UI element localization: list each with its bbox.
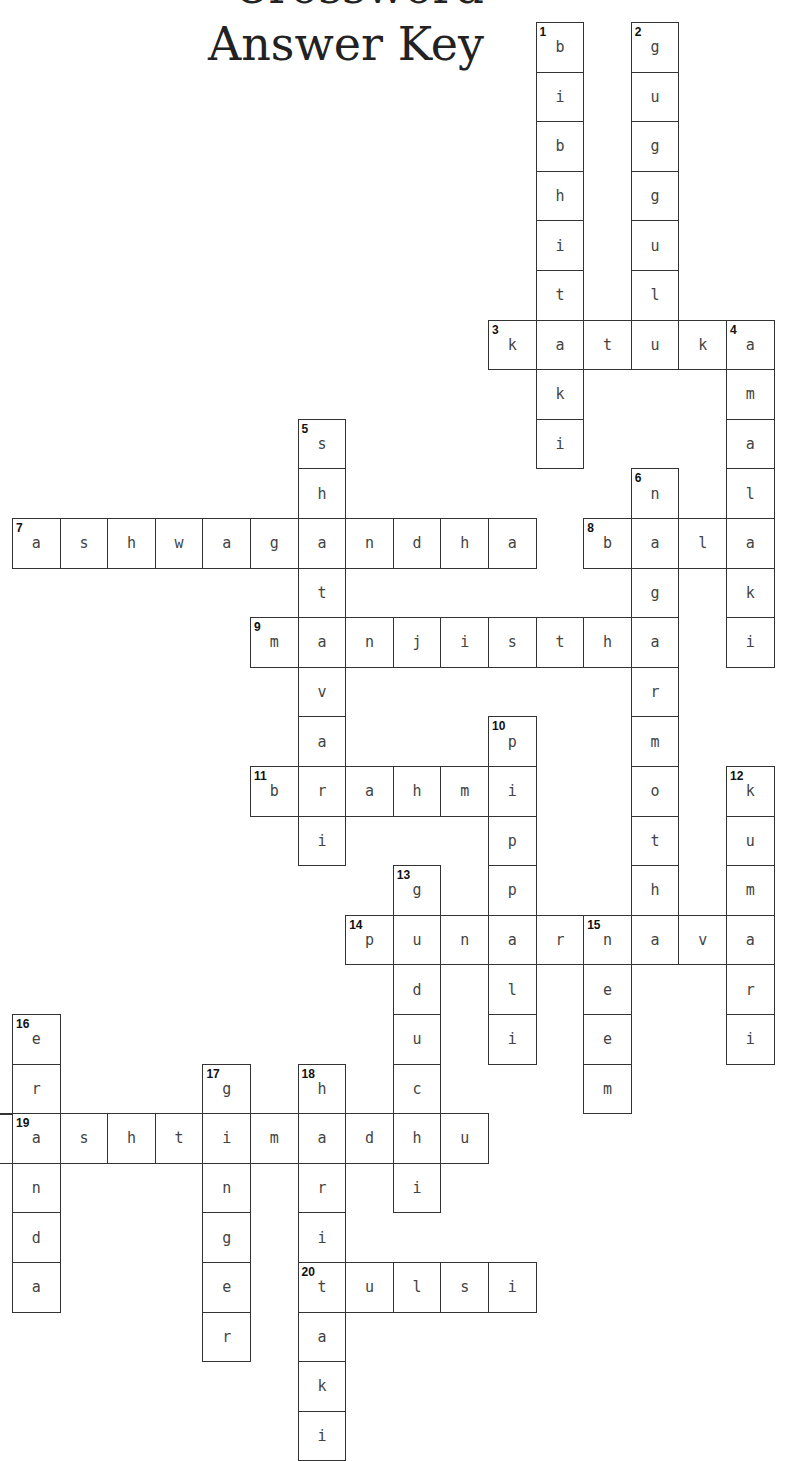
crossword-cell: a <box>631 617 680 668</box>
crossword-cell: n <box>440 915 489 966</box>
clue-number: 16 <box>16 1017 29 1031</box>
crossword-cell: g <box>250 518 299 569</box>
cell-letter: m <box>746 881 755 899</box>
cell-letter: k <box>317 1377 326 1395</box>
cell-letter: g <box>222 1080 231 1098</box>
crossword-cell: g17 <box>202 1064 251 1115</box>
cell-letter: s <box>79 534 88 552</box>
cell-letter: k <box>746 584 755 602</box>
cell-letter: i <box>317 832 326 850</box>
crossword-cell: n <box>12 1163 61 1214</box>
crossword-cell: t20 <box>298 1262 347 1313</box>
crossword-cell: m <box>440 766 489 817</box>
crossword-cell: u <box>631 220 680 271</box>
cell-letter: t <box>317 584 326 602</box>
cell-letter: a <box>32 1278 41 1296</box>
crossword-cell: i <box>298 1411 347 1461</box>
cell-letter: m <box>746 385 755 403</box>
cell-letter: i <box>413 1179 422 1197</box>
cell-letter: b <box>270 782 279 800</box>
cell-letter: h <box>127 534 136 552</box>
cell-letter: n <box>365 633 374 651</box>
cell-letter: l <box>651 286 660 304</box>
crossword-cell: b <box>536 121 585 172</box>
crossword-cell: t <box>631 816 680 867</box>
crossword-cell: n <box>345 518 394 569</box>
clue-number: 5 <box>302 422 309 436</box>
cell-letter: t <box>555 286 564 304</box>
crossword-cell: h <box>440 518 489 569</box>
cell-letter: n <box>365 534 374 552</box>
cell-letter: u <box>365 1278 374 1296</box>
cell-letter: i <box>317 1427 326 1445</box>
cell-letter: w <box>175 534 184 552</box>
crossword-cell: k <box>536 369 585 420</box>
crossword-cell: a4 <box>726 320 775 371</box>
crossword-cell: i <box>726 617 775 668</box>
crossword-cell: h18 <box>298 1064 347 1115</box>
cell-letter: s <box>317 435 326 453</box>
crossword-cell: n <box>202 1163 251 1214</box>
crossword-cell: i <box>536 419 585 470</box>
clue-number: 2 <box>635 25 642 39</box>
cell-letter: v <box>317 683 326 701</box>
crossword-cell: e <box>202 1262 251 1313</box>
grid-edge-line <box>0 1163 12 1165</box>
cell-letter: h <box>555 187 564 205</box>
clue-number: 14 <box>349 918 362 932</box>
cell-letter: g <box>651 584 660 602</box>
crossword-cell: j <box>393 617 442 668</box>
cell-letter: u <box>413 1030 422 1048</box>
cell-letter: a <box>317 633 326 651</box>
cell-letter: a <box>746 534 755 552</box>
crossword-cell: a <box>298 1312 347 1363</box>
cell-letter: a <box>317 733 326 751</box>
cell-letter: e <box>32 1030 41 1048</box>
crossword-cell: g13 <box>393 865 442 916</box>
crossword-cell: l <box>726 468 775 519</box>
cell-letter: h <box>651 881 660 899</box>
cell-letter: t <box>603 336 612 354</box>
cell-letter: g <box>651 137 660 155</box>
crossword-cell: e <box>583 1014 632 1065</box>
cell-letter: r <box>651 683 660 701</box>
clue-number: 7 <box>16 521 23 535</box>
cell-letter: d <box>413 534 422 552</box>
cell-letter: i <box>508 1278 517 1296</box>
crossword-cell: i <box>298 1212 347 1263</box>
crossword-cell: m <box>631 716 680 767</box>
clue-number: 17 <box>206 1067 219 1081</box>
clue-number: 13 <box>397 868 410 882</box>
crossword-cell: v <box>678 915 727 966</box>
cell-letter: l <box>413 1278 422 1296</box>
crossword-cell: a <box>298 1113 347 1164</box>
crossword-cell: h <box>107 518 156 569</box>
crossword-cell: r <box>298 1163 347 1214</box>
crossword-cell: a <box>726 518 775 569</box>
cell-letter: a <box>746 931 755 949</box>
crossword-cell: t <box>298 568 347 619</box>
clue-number: 19 <box>16 1116 29 1130</box>
cell-letter: i <box>460 633 469 651</box>
cell-letter: h <box>317 485 326 503</box>
crossword-cell: g <box>631 121 680 172</box>
cell-letter: h <box>603 633 612 651</box>
cell-letter: g <box>270 534 279 552</box>
cell-letter: p <box>508 832 517 850</box>
crossword-cell: a <box>726 915 775 966</box>
crossword-cell: u <box>631 72 680 123</box>
cell-letter: p <box>508 733 517 751</box>
cell-letter: a <box>746 336 755 354</box>
crossword-cell: n <box>345 617 394 668</box>
crossword-cell: r <box>298 766 347 817</box>
crossword-cell: a7 <box>12 518 61 569</box>
cell-letter: k <box>555 385 564 403</box>
cell-letter: n <box>603 931 612 949</box>
cell-letter: a <box>508 534 517 552</box>
cell-letter: g <box>222 1229 231 1247</box>
cell-letter: a <box>32 1129 41 1147</box>
cell-letter: a <box>317 534 326 552</box>
cell-letter: a <box>746 435 755 453</box>
crossword-cell: i <box>488 766 537 817</box>
crossword-cell: i <box>488 1014 537 1065</box>
